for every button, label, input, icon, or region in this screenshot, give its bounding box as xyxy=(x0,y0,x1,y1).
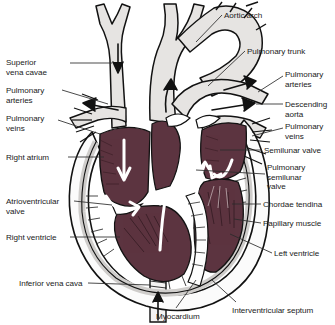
label-descending-aorta: Descending aorta xyxy=(285,100,327,119)
label-pulmonary-trunk: Pulmonary trunk xyxy=(247,47,305,57)
pulmonary-trunk-shape xyxy=(172,79,268,118)
label-pulmonary-veins-right: Pulmonary veins xyxy=(285,122,323,141)
label-semilunar-valve: Semilunar valve xyxy=(264,146,321,156)
label-papillary-muscle: Papillary muscle xyxy=(263,219,321,229)
label-interventricular-septum: Interventricular septum xyxy=(232,306,313,316)
label-superior-vena-cavae: Superior vena cavae xyxy=(6,58,47,77)
label-right-ventricle: Right ventricle xyxy=(6,233,57,243)
label-aortic-arch: Aortic arch xyxy=(224,11,262,21)
right-ventricle-chamber xyxy=(114,206,191,282)
heart-anatomy-figure: Superior vena cavae Pulmonary arteries P… xyxy=(0,0,335,325)
label-pulmonary-veins-left: Pulmonary veins xyxy=(6,114,44,133)
label-chordae-tendina: Chordae tendina xyxy=(263,200,322,210)
label-pulmonary-semilunar-valve: Pulmonary semilunar valve xyxy=(267,163,305,192)
label-pulmonary-arteries-left: Pulmonary arteries xyxy=(6,86,44,105)
label-inferior-vena-cava: Inferior vena cava xyxy=(19,279,82,289)
label-right-atrium: Right atrium xyxy=(6,153,49,163)
label-myocardium: Myocardium xyxy=(156,312,200,322)
label-atrioventricular-valve: Atrioventricular valve xyxy=(6,197,59,216)
leader-pulmonary-arteries-right xyxy=(258,76,283,92)
label-pulmonary-arteries-right: Pulmonary arteries xyxy=(285,70,323,89)
label-left-ventricle: Left ventricle xyxy=(274,249,319,259)
interatrial-septum-shape xyxy=(152,121,181,190)
pulmonary-semilunar-valve-shape xyxy=(166,114,190,126)
